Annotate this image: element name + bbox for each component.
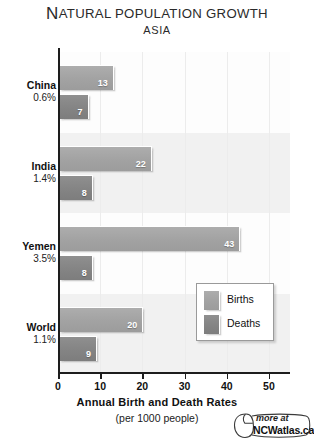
gridline [185,52,186,374]
bar-china-births: 13 [59,65,114,90]
bar-value-label: 20 [127,320,137,331]
x-axis-tick-label: 30 [170,380,200,392]
bar-value-label: 9 [86,349,91,360]
category-label-yemen: Yemen3.5% [2,240,56,265]
bar-value-label: 22 [136,159,146,170]
legend: Births Deaths [196,283,274,341]
bar-value-label: 43 [224,239,234,250]
bar-india-births: 22 [59,146,152,171]
x-axis-tick [185,374,187,379]
growth-rate-value: 3.5% [2,253,56,265]
x-axis-tick-label: 50 [254,380,284,392]
bar-india-deaths: 8 [59,175,93,200]
x-axis-tick [58,374,60,379]
ncwatlas-logo[interactable]: more at NCWatlas.ca [232,411,312,441]
category-name: China [2,79,56,91]
bar-world-deaths: 9 [59,336,97,361]
category-name: Yemen [2,240,56,252]
bar-value-label: 8 [82,188,87,199]
category-label-china: China0.6% [2,79,56,104]
bar-value-label: 8 [82,268,87,279]
deaths-swatch-icon [204,314,220,334]
x-axis-tick [269,374,271,379]
growth-rate-value: 1.1% [2,334,56,346]
bar-value-label: 13 [98,78,108,89]
growth-rate-value: 0.6% [2,92,56,104]
page-title: Natural Population Growth [0,6,314,22]
row-band [58,133,290,214]
bar-china-deaths: 7 [59,94,89,119]
x-axis-tick-label: 10 [85,380,115,392]
chart-header: Natural Population Growth ASIA [0,6,314,38]
x-axis-tick-label: 0 [43,380,73,392]
x-axis-title: Annual Birth and Death Rates [0,396,314,408]
logo-site-text: NCWatlas.ca [253,424,314,436]
category-name: India [2,160,56,172]
x-axis-tick-label: 20 [127,380,157,392]
bar-yemen-births: 43 [59,226,240,251]
category-name: World [2,321,56,333]
births-swatch-icon [204,290,220,310]
category-label-india: India1.4% [2,160,56,185]
category-label-world: World1.1% [2,321,56,346]
legend-label-deaths: Deaths [227,317,260,329]
x-axis-tick [142,374,144,379]
bar-yemen-deaths: 8 [59,255,93,280]
x-axis-tick [227,374,229,379]
growth-rate-value: 1.4% [2,173,56,185]
title-dropcap: N [46,4,59,23]
x-axis-tick [100,374,102,379]
y-axis-line [58,48,60,374]
x-axis-tick-label: 40 [212,380,242,392]
title-rest: atural Population Growth [59,6,268,21]
logo-more-at-text: more at [256,413,289,423]
bar-value-label: 7 [78,107,83,118]
bar-world-births: 20 [59,307,143,332]
x-axis-line [58,372,290,374]
page-subtitle: ASIA [0,23,314,38]
legend-label-births: Births [227,293,254,305]
